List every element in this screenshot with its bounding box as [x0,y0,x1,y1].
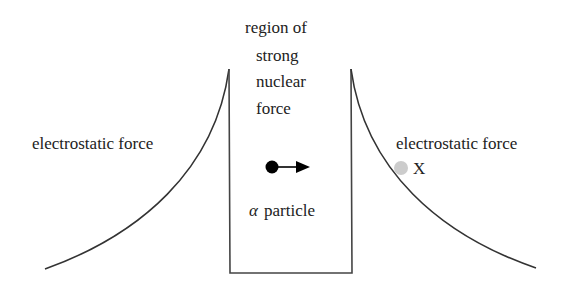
center-label-line4: force [256,99,291,118]
left-electrostatic-curve [45,69,229,269]
center-label-line1: region of [245,18,307,37]
center-label-line3: nuclear [256,72,306,91]
point-x-label: X [413,159,425,178]
motion-arrow-head [296,161,310,173]
center-label-line2: strong [256,46,299,65]
point-x-marker [394,161,408,175]
right-electrostatic-curve [351,69,536,268]
alpha-symbol: α [249,201,259,220]
right-force-label: electrostatic force [396,134,517,153]
diagram-svg: electrostatic force electrostatic force … [0,0,567,290]
alpha-particle [266,161,279,174]
potential-barrier-diagram: electrostatic force electrostatic force … [0,0,567,290]
left-force-label: electrostatic force [32,134,153,153]
particle-label: particle [264,201,315,220]
